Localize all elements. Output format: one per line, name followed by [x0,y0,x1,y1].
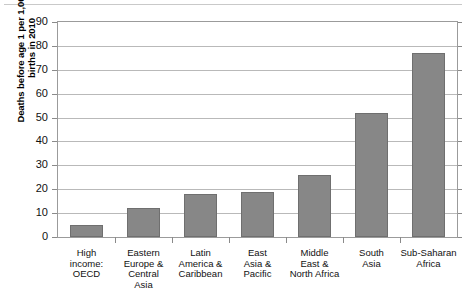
y-tick-label-80: 80 [17,39,48,51]
bar-5[interactable] [355,113,388,237]
bar-1[interactable] [127,208,160,237]
bar-4[interactable] [298,175,331,237]
x-axis-label-4: MiddleEast &North Africa [286,248,343,280]
y-tick-label-40: 40 [17,134,48,146]
x-tick-mark-3 [229,237,230,243]
y-tick-label-70: 70 [17,63,48,75]
y-tick-label-10: 10 [17,206,48,218]
x-tick-mark-1 [115,237,116,243]
gridline-50 [58,118,457,119]
x-tick-mark-6 [400,237,401,243]
x-tick-mark-5 [343,237,344,243]
x-axis-label-1: EasternEurope &CentralAsia [115,248,172,290]
y-tick-label-60: 60 [17,87,48,99]
top-divider-rule [4,4,462,5]
gridline-80 [58,46,457,47]
y-tick-label-90: 90 [17,15,48,27]
x-axis-label-2: LatinAmerica &Caribbean [172,248,229,280]
gridline-40 [58,141,457,142]
x-tick-mark-4 [286,237,287,243]
bar-3[interactable] [241,192,274,237]
gridline-60 [58,94,457,95]
x-axis-label-5: SouthAsia [343,248,400,269]
x-axis-label-0: Highincome:OECD [58,248,115,280]
gridline-70 [58,70,457,71]
gridline-30 [58,165,457,166]
y-tick-label-50: 50 [17,111,48,123]
plot-area [57,21,458,238]
x-tick-mark-2 [172,237,173,243]
gridline-20 [58,189,457,190]
bar-2[interactable] [184,194,217,237]
bar-0[interactable] [70,225,103,237]
y-tick-label-30: 30 [17,158,48,170]
y-tick-label-20: 20 [17,182,48,194]
x-axis-label-6: Sub-SaharanAfrica [400,248,457,269]
bar-chart-figure: Deaths before age 1 per 1,000 live birth… [0,0,466,300]
x-axis-label-3: EastAsia &Pacific [229,248,286,280]
bar-6[interactable] [412,53,445,237]
y-tick-label-0: 0 [17,230,48,242]
